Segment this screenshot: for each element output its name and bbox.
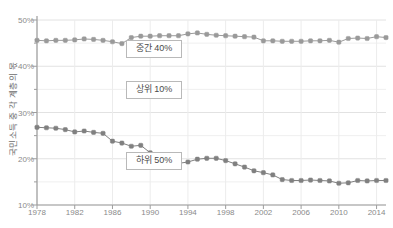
- data-point: [186, 160, 190, 164]
- data-point: [242, 165, 246, 169]
- data-point: [129, 144, 133, 148]
- data-point: [54, 38, 58, 42]
- data-point: [374, 35, 378, 39]
- x-tick-label: 1986: [104, 208, 122, 217]
- data-point: [176, 34, 180, 38]
- data-point: [356, 36, 360, 40]
- legend-label-middle40: 중간 40%: [126, 40, 183, 58]
- data-point: [233, 162, 237, 166]
- data-point: [271, 39, 275, 43]
- x-tick-label: 1994: [179, 208, 197, 217]
- data-point: [101, 38, 105, 42]
- data-point: [384, 35, 388, 39]
- data-point: [110, 139, 114, 143]
- plot-area: [0, 0, 393, 228]
- data-point: [158, 34, 162, 38]
- data-point: [44, 126, 48, 130]
- data-point: [214, 156, 218, 160]
- data-point: [252, 35, 256, 39]
- data-point: [35, 125, 39, 129]
- data-point: [120, 141, 124, 145]
- data-point: [327, 38, 331, 42]
- data-point: [365, 36, 369, 40]
- data-point: [101, 131, 105, 135]
- data-point: [82, 37, 86, 41]
- data-point: [337, 40, 341, 44]
- data-point: [280, 39, 284, 43]
- data-point: [290, 39, 294, 43]
- data-point: [308, 178, 312, 182]
- data-point: [63, 128, 67, 132]
- data-point: [261, 171, 265, 175]
- data-point: [148, 34, 152, 38]
- data-point: [290, 178, 294, 182]
- legend-label-top10: 상위 10%: [126, 81, 183, 99]
- data-point: [346, 181, 350, 185]
- x-tick-label: 2014: [368, 208, 386, 217]
- data-point: [205, 32, 209, 36]
- x-tick-label: 1982: [66, 208, 84, 217]
- data-point: [337, 181, 341, 185]
- data-point: [299, 178, 303, 182]
- data-point: [308, 39, 312, 43]
- legend-label-bottom50: 하위 50%: [126, 152, 183, 170]
- data-point: [365, 179, 369, 183]
- data-point: [139, 34, 143, 38]
- axis-lines: [37, 16, 386, 205]
- x-tick-label: 1978: [28, 208, 46, 217]
- data-point: [195, 31, 199, 35]
- data-point: [186, 32, 190, 36]
- data-point: [195, 157, 199, 161]
- data-point: [271, 173, 275, 177]
- data-point: [233, 34, 237, 38]
- data-point: [261, 39, 265, 43]
- x-tick-label: 1990: [141, 208, 159, 217]
- data-point: [73, 130, 77, 134]
- data-point: [327, 179, 331, 183]
- data-point: [252, 169, 256, 173]
- data-point: [214, 33, 218, 37]
- data-point: [110, 40, 114, 44]
- x-axis-tick-labels: 1978198219861990199419982002200620102014: [0, 208, 393, 224]
- data-point: [346, 36, 350, 40]
- data-point: [384, 178, 388, 182]
- data-point: [139, 143, 143, 147]
- data-point: [280, 177, 284, 181]
- x-tick-label: 2010: [330, 208, 348, 217]
- data-point: [242, 35, 246, 39]
- x-tick-label: 2002: [254, 208, 272, 217]
- data-point: [224, 34, 228, 38]
- data-point: [318, 178, 322, 182]
- x-tick-label: 1998: [217, 208, 235, 217]
- data-point: [120, 41, 124, 45]
- x-tick-label: 2006: [292, 208, 310, 217]
- chart-container: 국민소득 중 각 계층의 몫 50% 40% 30% 20% 10% 19781…: [0, 0, 393, 228]
- data-point: [35, 38, 39, 42]
- gridlines: [37, 20, 386, 205]
- data-point: [205, 156, 209, 160]
- data-point: [73, 38, 77, 42]
- data-series-layer: [35, 31, 388, 186]
- data-point: [374, 178, 378, 182]
- data-point: [91, 37, 95, 41]
- data-point: [63, 38, 67, 42]
- data-point: [54, 126, 58, 130]
- data-point: [299, 39, 303, 43]
- data-point: [224, 159, 228, 163]
- data-point: [82, 129, 86, 133]
- data-point: [318, 39, 322, 43]
- data-point: [356, 178, 360, 182]
- data-point: [167, 34, 171, 38]
- data-point: [91, 130, 95, 134]
- data-point: [44, 39, 48, 43]
